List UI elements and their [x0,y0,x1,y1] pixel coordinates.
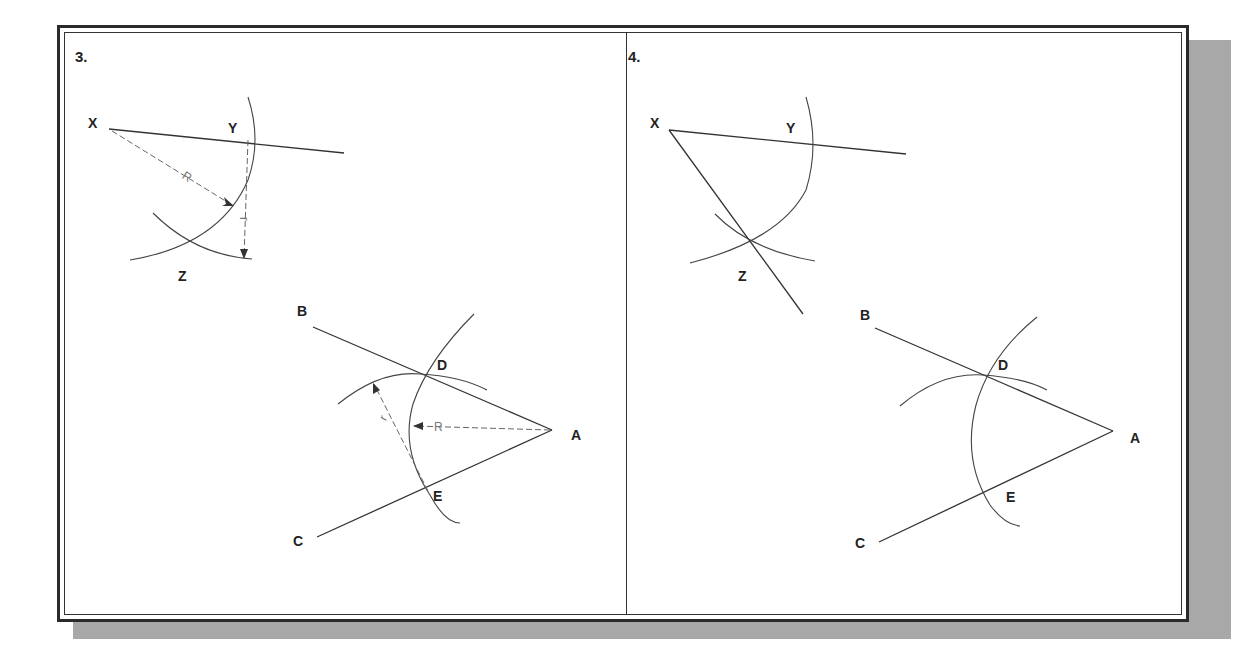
ray-ac [879,431,1113,542]
point-d-label: D [437,357,447,373]
construction-drawing: 3. X Y Z R r B A C D E R [0,0,1247,661]
point-a-label: A [571,427,581,443]
ray-ab [875,328,1113,431]
point-b-label: B [860,307,870,323]
point-z-label: Z [178,268,187,284]
ray-ac [317,430,552,537]
point-x-label: X [88,115,98,131]
arrowhead-icon [413,422,423,430]
step-label-4: 4. [628,48,641,65]
dimension-label-R-lower: R [434,420,443,434]
point-c-label: C [293,533,303,549]
arc-r-from-e [900,375,1047,406]
dimension-r-small [244,140,248,258]
step-label-3: 3. [75,48,88,65]
point-x-label: X [650,115,660,131]
dimension-label-R: R [180,168,195,185]
point-d-label: D [998,357,1008,373]
line-xz [669,130,803,314]
arrowhead-icon [222,197,234,206]
dimension-r-small-lower [374,384,428,491]
arrowhead-icon [373,383,380,394]
point-e-label: E [1006,489,1015,505]
arc-r-from-e [338,374,487,404]
dimension-label-r: r [237,217,251,221]
point-y-label: Y [786,120,796,136]
dimension-label-r-lower: r [376,413,390,423]
panel-step-3: 3. X Y Z R r B A C D E R [75,48,581,549]
panel-step-4: 4. X Y Z B A C D E [628,48,1140,551]
arc-r-from-y [715,214,815,261]
point-a-label: A [1130,430,1140,446]
line-xy [109,129,344,153]
point-y-label: Y [228,120,238,136]
point-z-label: Z [738,268,747,284]
arc-r-from-a [971,317,1037,526]
point-c-label: C [855,535,865,551]
point-b-label: B [297,303,307,319]
dimension-r-large [112,131,232,205]
ray-ab [313,327,552,430]
